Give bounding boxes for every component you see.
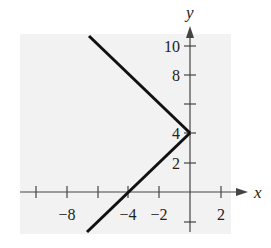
y-tick-label: 10 <box>164 38 180 55</box>
y-axis-arrow-icon <box>186 26 194 38</box>
graph: −8 −4 −2 2 10 8 4 2 x y <box>0 0 271 248</box>
x-axis-arrow-icon <box>236 188 248 196</box>
x-tick-label: −8 <box>58 206 75 223</box>
y-axis-label: y <box>184 3 194 22</box>
x-tick-label: −4 <box>119 206 136 223</box>
y-tick-label: 8 <box>172 67 180 84</box>
x-tick-label: −2 <box>150 206 167 223</box>
x-axis-label: x <box>253 183 262 202</box>
plot-background <box>20 34 231 234</box>
y-tick-label: 2 <box>172 155 180 172</box>
y-tick-label: 4 <box>172 125 180 142</box>
x-tick-label: 2 <box>217 206 225 223</box>
